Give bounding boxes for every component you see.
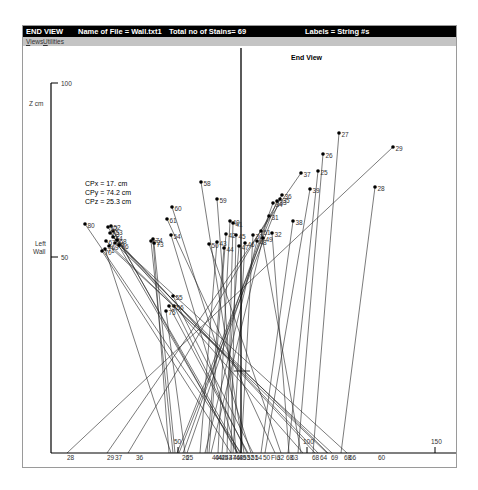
svg-text:29: 29: [396, 145, 404, 152]
svg-text:27: 27: [342, 131, 350, 138]
svg-text:51: 51: [264, 229, 272, 236]
z-axis-label: Z cm: [29, 100, 43, 107]
title-total: Total no of Stains= 69: [169, 26, 246, 37]
svg-text:50: 50: [61, 254, 69, 261]
svg-text:100: 100: [303, 438, 314, 445]
left-wall-label-2: Wall: [33, 248, 46, 255]
cpz-label: CPz = 25.3 cm: [85, 198, 131, 205]
svg-text:64: 64: [320, 454, 328, 461]
menu-utilities[interactable]: Utilities: [43, 37, 64, 46]
svg-text:69: 69: [331, 454, 339, 461]
end-view-plot: 1005050100150282937362625404442454347464…: [23, 46, 456, 467]
svg-text:29: 29: [107, 454, 115, 461]
svg-text:26: 26: [326, 152, 334, 159]
svg-text:49: 49: [266, 236, 274, 243]
svg-text:45: 45: [239, 233, 247, 240]
svg-text:50: 50: [174, 438, 182, 445]
menu-bar: Views Utilities: [23, 37, 456, 46]
svg-text:150: 150: [431, 438, 442, 445]
svg-text:25: 25: [321, 169, 329, 176]
svg-text:50: 50: [263, 454, 271, 461]
plot-title: End View: [291, 54, 323, 61]
cpy-label: CPy = 74.2 cm: [85, 189, 131, 197]
title-labels: Labels = String #s: [305, 26, 369, 37]
svg-text:32: 32: [275, 231, 283, 238]
svg-text:74: 74: [156, 237, 164, 244]
svg-text:33: 33: [280, 199, 288, 206]
svg-text:71: 71: [108, 247, 116, 254]
svg-text:55: 55: [176, 294, 184, 301]
svg-text:28: 28: [378, 185, 386, 192]
stain-points: 2726292537283936353433313832305859606140…: [83, 131, 403, 316]
title-bar: END VIEW Name of File = Wall.txt1 Total …: [23, 26, 456, 37]
svg-text:61: 61: [170, 217, 178, 224]
svg-text:60: 60: [175, 205, 183, 212]
svg-text:60: 60: [378, 454, 386, 461]
svg-text:50: 50: [212, 242, 220, 249]
svg-text:46: 46: [248, 241, 256, 248]
svg-text:37: 37: [304, 171, 312, 178]
svg-text:68: 68: [312, 454, 320, 461]
svg-text:38: 38: [296, 219, 304, 226]
svg-text:75: 75: [169, 309, 177, 316]
end-view-window: END VIEW Name of File = Wall.txt1 Total …: [22, 25, 457, 468]
menu-views[interactable]: Views: [26, 37, 43, 46]
svg-text:36: 36: [136, 454, 144, 461]
svg-text:25: 25: [186, 454, 194, 461]
title-view: END VIEW: [26, 26, 63, 37]
svg-text:68: 68: [120, 238, 128, 245]
svg-text:54: 54: [174, 233, 182, 240]
cpx-label: CPx = 17. cm: [85, 180, 127, 187]
svg-text:58: 58: [204, 180, 212, 187]
svg-text:80: 80: [88, 222, 96, 229]
svg-text:66: 66: [349, 454, 357, 461]
left-wall-label-1: Left: [35, 240, 46, 247]
svg-text:59: 59: [220, 197, 228, 204]
svg-text:100: 100: [61, 80, 72, 87]
svg-text:37: 37: [115, 454, 123, 461]
svg-text:41: 41: [236, 221, 244, 228]
title-file: Name of File = Wall.txt1: [78, 26, 162, 37]
svg-text:39: 39: [313, 187, 321, 194]
svg-text:28: 28: [67, 454, 75, 461]
svg-text:44: 44: [227, 246, 235, 253]
svg-text:54: 54: [255, 454, 263, 461]
svg-text:32: 32: [277, 454, 285, 461]
svg-text:31: 31: [272, 214, 280, 221]
svg-text:63: 63: [291, 454, 299, 461]
